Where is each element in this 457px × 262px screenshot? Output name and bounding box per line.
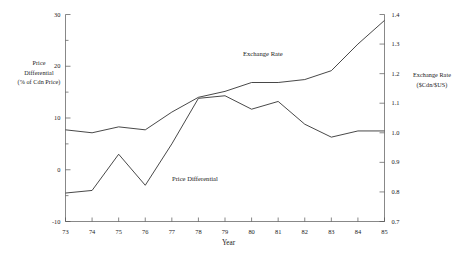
y-tick-label-left-0: -10 xyxy=(40,218,61,225)
series-annotation-price-differential: Price Differential xyxy=(172,175,218,182)
chart-figure: Price Differential (% of Cdn Price) Exch… xyxy=(0,0,457,262)
y-axis-label-right-line-2: ($Cdn/$US) xyxy=(408,80,456,90)
y-tick-label-left-4: 30 xyxy=(40,11,61,18)
y-tick-label-right-0: 0.7 xyxy=(392,218,414,225)
x-tick-label-9: 82 xyxy=(296,228,314,235)
x-tick-label-1: 74 xyxy=(83,228,101,235)
y-tick-label-right-1: 0.8 xyxy=(392,188,414,195)
axes-group xyxy=(66,15,385,222)
x-tick-label-11: 84 xyxy=(349,228,367,235)
x-tick-label-8: 81 xyxy=(269,228,287,235)
y-tick-label-right-2: 0.9 xyxy=(392,158,414,165)
y-tick-label-left-3: 20 xyxy=(40,62,61,69)
x-tick-label-10: 83 xyxy=(322,228,340,235)
y-axis-label-right-line-1: Exchange Rate xyxy=(408,70,456,80)
x-tick-label-6: 79 xyxy=(216,228,234,235)
series-line-exchange-rate xyxy=(66,20,385,132)
y-tick-label-right-4: 1.1 xyxy=(392,99,414,106)
series-group xyxy=(66,20,385,193)
x-tick-label-4: 77 xyxy=(163,228,181,235)
x-axis-title: Year xyxy=(0,239,457,247)
series-line-price-differential xyxy=(66,96,385,193)
x-tick-label-5: 78 xyxy=(189,228,207,235)
x-tick-label-0: 73 xyxy=(57,228,75,235)
y-tick-label-left-2: 10 xyxy=(40,114,61,121)
y-axis-label-right: Exchange Rate ($Cdn/$US) xyxy=(408,70,456,89)
y-tick-label-right-6: 1.3 xyxy=(392,40,414,47)
y-axis-label-left-line-3: (% of Cdn Price) xyxy=(14,77,64,87)
plot-area xyxy=(0,0,457,262)
y-tick-label-right-7: 1.4 xyxy=(392,11,414,18)
y-tick-label-right-3: 1.0 xyxy=(392,129,414,136)
y-tick-label-left-1: 0 xyxy=(40,166,61,173)
y-tick-label-right-5: 1.2 xyxy=(392,70,414,77)
x-tick-label-12: 85 xyxy=(376,228,394,235)
x-tick-label-2: 75 xyxy=(110,228,128,235)
x-tick-label-7: 80 xyxy=(243,228,261,235)
series-annotation-exchange-rate: Exchange Rate xyxy=(243,50,283,57)
x-tick-label-3: 76 xyxy=(136,228,154,235)
